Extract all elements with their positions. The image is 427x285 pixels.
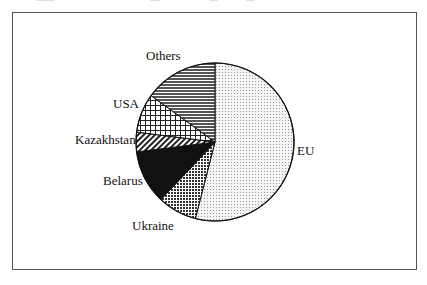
pie-chart xyxy=(0,0,427,285)
label-kazakhstan: Kazakhstan xyxy=(75,132,136,148)
label-usa: USA xyxy=(113,96,139,112)
label-ukraine: Ukraine xyxy=(132,218,174,234)
label-others: Others xyxy=(146,48,181,64)
label-eu: EU xyxy=(297,143,314,159)
label-belarus: Belarus xyxy=(103,173,143,189)
